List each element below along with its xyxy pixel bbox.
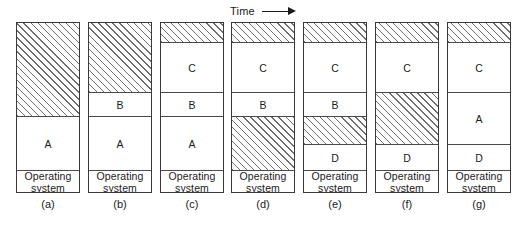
memory-segment-label: Operating system <box>239 171 286 193</box>
memory-column-a: AOperating system(a) <box>16 22 80 193</box>
memory-segment-label: Operating system <box>24 171 71 193</box>
memory-column-f: CDOperating system(f) <box>375 22 439 193</box>
time-axis-label: Time <box>230 6 255 17</box>
memory-segment-label: C <box>188 62 196 74</box>
memory-segment-process: A <box>89 117 151 171</box>
memory-segment-label: D <box>331 152 339 164</box>
memory-segment-label: B <box>331 99 338 111</box>
memory-column-caption: (b) <box>88 198 152 211</box>
time-axis-header: Time <box>0 2 526 20</box>
memory-box: CBDOperating system <box>303 22 367 193</box>
memory-columns-row: AOperating system(a)BAOperating system(b… <box>0 22 526 228</box>
memory-segment-label: C <box>259 62 267 74</box>
memory-segment-label: A <box>475 113 482 125</box>
memory-segment-process: C <box>161 43 223 93</box>
memory-segment-label: B <box>116 99 123 111</box>
arrow-shaft <box>262 11 290 12</box>
memory-segment-operating-system: Operating system <box>304 171 366 193</box>
memory-allocation-figure: Time AOperating system(a)BAOperating sys… <box>0 0 526 228</box>
memory-segment-process: C <box>448 43 510 93</box>
memory-column-g: CADOperating system(g) <box>447 22 511 193</box>
memory-segment-process: D <box>376 145 438 171</box>
memory-segment-process: C <box>304 43 366 93</box>
memory-segment-process: C <box>376 43 438 93</box>
memory-segment-label: B <box>188 99 195 111</box>
memory-segment-label: Operating system <box>96 171 143 193</box>
arrow-right-icon <box>262 7 296 16</box>
memory-segment-label: Operating system <box>383 171 430 193</box>
memory-column-d: CBOperating system(d) <box>231 22 295 193</box>
memory-segment-free <box>304 117 366 145</box>
memory-segment-free <box>376 23 438 43</box>
memory-segment-label: D <box>475 152 483 164</box>
memory-segment-free <box>232 23 294 43</box>
memory-segment-label: C <box>403 62 411 74</box>
memory-column-caption: (g) <box>447 198 511 211</box>
memory-segment-process: C <box>232 43 294 93</box>
memory-segment-operating-system: Operating system <box>89 171 151 193</box>
memory-segment-free <box>376 93 438 145</box>
memory-segment-process: B <box>304 93 366 117</box>
memory-segment-free <box>448 23 510 43</box>
memory-column-caption: (c) <box>160 198 224 211</box>
memory-segment-label: Operating system <box>311 171 358 193</box>
arrow-head <box>288 7 296 15</box>
memory-segment-process: A <box>448 93 510 145</box>
memory-segment-process: D <box>304 145 366 171</box>
memory-column-caption: (f) <box>375 198 439 211</box>
memory-segment-operating-system: Operating system <box>161 171 223 193</box>
memory-segment-free <box>232 117 294 171</box>
memory-segment-process: A <box>17 117 79 171</box>
memory-segment-operating-system: Operating system <box>232 171 294 193</box>
memory-segment-label: C <box>475 62 483 74</box>
memory-segment-label: Operating system <box>168 171 215 193</box>
memory-segment-label: D <box>403 152 411 164</box>
memory-segment-process: D <box>448 145 510 171</box>
memory-box: AOperating system <box>16 22 80 193</box>
memory-box: CBAOperating system <box>160 22 224 193</box>
memory-column-caption: (a) <box>16 198 80 211</box>
memory-column-caption: (e) <box>303 198 367 211</box>
memory-segment-process: B <box>161 93 223 117</box>
memory-segment-process: A <box>161 117 223 171</box>
memory-segment-label: A <box>44 138 51 150</box>
memory-segment-label: A <box>116 138 123 150</box>
memory-segment-operating-system: Operating system <box>448 171 510 193</box>
memory-segment-label: A <box>188 138 195 150</box>
memory-segment-free <box>17 23 79 117</box>
memory-column-b: BAOperating system(b) <box>88 22 152 193</box>
memory-box: CDOperating system <box>375 22 439 193</box>
memory-segment-operating-system: Operating system <box>376 171 438 193</box>
memory-segment-operating-system: Operating system <box>17 171 79 193</box>
memory-box: CADOperating system <box>447 22 511 193</box>
memory-segment-free <box>89 23 151 93</box>
memory-segment-label: C <box>331 62 339 74</box>
memory-segment-process: B <box>89 93 151 117</box>
memory-box: BAOperating system <box>88 22 152 193</box>
memory-segment-free <box>304 23 366 43</box>
memory-box: CBOperating system <box>231 22 295 193</box>
memory-column-e: CBDOperating system(e) <box>303 22 367 193</box>
memory-segment-label: Operating system <box>455 171 502 193</box>
memory-column-c: CBAOperating system(c) <box>160 22 224 193</box>
memory-segment-process: B <box>232 93 294 117</box>
memory-segment-free <box>161 23 223 43</box>
memory-column-caption: (d) <box>231 198 295 211</box>
memory-segment-label: B <box>259 99 266 111</box>
